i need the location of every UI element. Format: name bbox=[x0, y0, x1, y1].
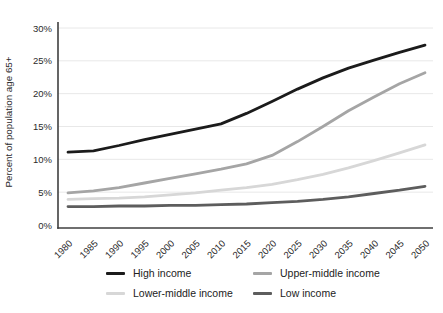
x-tick-label: 2025 bbox=[281, 238, 304, 260]
legend-item-lower-middle-income: Lower-middle income bbox=[106, 285, 253, 301]
gridlines bbox=[58, 28, 433, 192]
series-line-lower-middle-income bbox=[68, 145, 425, 200]
y-tick-label: 5% bbox=[38, 187, 52, 198]
series-line-upper-middle-income bbox=[68, 73, 425, 193]
x-tick-label: 1995 bbox=[128, 238, 151, 260]
x-tick-label: 2035 bbox=[332, 238, 355, 260]
x-tick-label: 2030 bbox=[307, 238, 330, 260]
x-tick-label: 2020 bbox=[256, 238, 279, 260]
x-tick-label: 2040 bbox=[358, 238, 381, 260]
legend-swatch-upper-middle-income bbox=[253, 272, 272, 275]
legend-label-low-income: Low income bbox=[280, 287, 336, 299]
legend-item-high-income: High income bbox=[106, 265, 253, 281]
x-axis-tick-labels: 1980198519901995200020052010201520202025… bbox=[52, 238, 432, 260]
legend-swatch-lower-middle-income bbox=[106, 292, 125, 295]
y-tick-label: 20% bbox=[33, 88, 53, 99]
y-tick-label: 10% bbox=[33, 154, 53, 165]
series-line-low-income bbox=[68, 186, 425, 206]
legend-label-lower-middle-income: Lower-middle income bbox=[133, 287, 233, 299]
y-tick-label: 30% bbox=[33, 23, 53, 34]
y-tick-label: 15% bbox=[33, 121, 53, 132]
x-tick-label: 2005 bbox=[179, 238, 202, 260]
series-lines bbox=[68, 45, 425, 207]
x-tick-label: 2045 bbox=[383, 238, 406, 260]
x-tick-label: 1980 bbox=[52, 238, 75, 260]
chart-legend: High incomeUpper-middle incomeLower-midd… bbox=[106, 265, 380, 301]
y-axis-tick-labels: 0%5%10%15%20%25%30% bbox=[33, 23, 53, 231]
legend-label-high-income: High income bbox=[133, 267, 191, 279]
x-tick-label: 2050 bbox=[409, 238, 432, 260]
x-tick-label: 2015 bbox=[230, 238, 253, 260]
legend-item-low-income: Low income bbox=[253, 285, 380, 301]
legend-swatch-high-income bbox=[106, 272, 125, 275]
y-tick-label: 0% bbox=[38, 220, 52, 231]
x-tick-label: 2000 bbox=[154, 238, 177, 260]
legend-item-upper-middle-income: Upper-middle income bbox=[253, 265, 380, 281]
y-tick-label: 25% bbox=[33, 55, 53, 66]
legend-label-upper-middle-income: Upper-middle income bbox=[280, 267, 380, 279]
y-axis-title: Percent of population age 65+ bbox=[3, 56, 14, 187]
legend-swatch-low-income bbox=[253, 292, 272, 295]
x-tick-label: 1990 bbox=[103, 238, 126, 260]
x-tick-label: 1985 bbox=[77, 238, 100, 260]
aging-population-line-chart: 0%5%10%15%20%25%30% 19801985199019952000… bbox=[0, 0, 443, 313]
x-tick-label: 2010 bbox=[205, 238, 228, 260]
chart-plot-area: 0%5%10%15%20%25%30% 19801985199019952000… bbox=[0, 0, 443, 260]
